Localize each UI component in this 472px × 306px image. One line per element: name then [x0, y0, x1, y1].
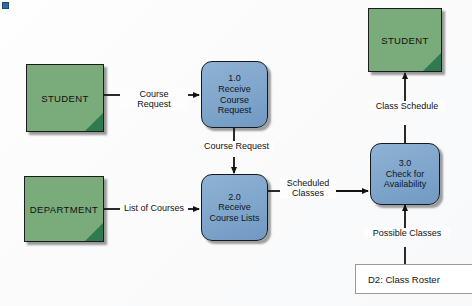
entity-department[interactable]: DEPARTMENT — [24, 176, 104, 242]
entity-corner-icon — [423, 53, 441, 71]
process-name: Receive Course Request — [218, 84, 252, 116]
entity-label: DEPARTMENT — [30, 204, 99, 215]
process-1-receive-course-request[interactable]: 1.0 Receive Course Request — [201, 61, 268, 128]
process-number: 3.0 — [399, 158, 412, 169]
entity-label: STUDENT — [381, 35, 429, 46]
flow-label-scheduled-classes: Scheduled Classes — [280, 178, 336, 199]
entity-student-left[interactable]: STUDENT — [26, 64, 104, 132]
process-2-receive-course-lists[interactable]: 2.0 Receive Course Lists — [201, 174, 268, 241]
flow-label-list-of-courses: List of Courses — [120, 203, 188, 213]
process-name: Check for Availability — [384, 169, 426, 190]
datastore-d2-class-roster[interactable]: D2: Class Roster — [355, 264, 472, 294]
flow-label-course-request-down: Course Request — [199, 141, 274, 151]
diagram-canvas: STUDENT DEPARTMENT STUDENT 1.0 Receive C… — [0, 0, 472, 306]
entity-corner-icon — [85, 113, 103, 131]
process-number: 1.0 — [228, 73, 241, 84]
entity-student-top[interactable]: STUDENT — [368, 8, 442, 72]
flow-label-possible-classes: Possible Classes — [364, 228, 450, 238]
datastore-label: D2: Class Roster — [368, 274, 440, 285]
entity-label: STUDENT — [41, 93, 89, 104]
flow-label-course-request-in: Course Request — [120, 89, 188, 110]
process-name: Receive Course Lists — [209, 202, 259, 223]
flow-label-class-schedule: Class Schedule — [369, 101, 445, 111]
process-3-check-for-availability[interactable]: 3.0 Check for Availability — [370, 143, 440, 205]
entity-corner-icon — [85, 223, 103, 241]
process-number: 2.0 — [228, 192, 241, 203]
